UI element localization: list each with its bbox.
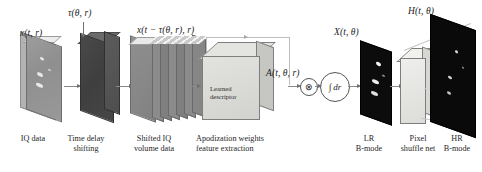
caption-line1: Shifted IQ xyxy=(118,134,190,144)
arrow-shifted-to-apod xyxy=(186,86,200,87)
caption-shifted-iq: Shifted IQ volume data xyxy=(118,134,190,154)
caption-line1: LR xyxy=(348,134,390,144)
hr-bright-spot xyxy=(448,75,452,79)
caption-time-delay: Time delay shifting xyxy=(56,134,116,154)
iq-plane-front xyxy=(26,33,62,122)
shifted-iq-group xyxy=(128,26,204,130)
apodization-cube-group: Learned descriptor xyxy=(200,42,292,130)
lr-bmode-math-label: X(t, θ) xyxy=(334,27,359,37)
integral-symbol: ∫ dr xyxy=(329,82,342,92)
time-delay-math-label: τ(θ, r) xyxy=(68,8,92,18)
cube-label-line2: descriptor xyxy=(210,93,236,101)
hr-bmode-math-label: H(t, θ) xyxy=(408,6,434,16)
lr-bright-spot xyxy=(372,79,379,86)
apodization-math-label: A(t, θ, r) xyxy=(266,68,300,78)
lr-bmode-group xyxy=(356,38,400,130)
caption-line2: B-mode xyxy=(348,144,390,154)
hr-bmode-group xyxy=(424,18,482,148)
caption-line2: B-mode xyxy=(436,144,478,154)
caption-line1: Time delay xyxy=(56,134,116,144)
caption-line1: IQ data xyxy=(4,134,62,144)
lr-bmode-plane xyxy=(360,40,392,126)
caption-line1: HR xyxy=(436,134,478,144)
shifted-iq-math-label: x(t − τ(θ, r), r) xyxy=(137,25,194,35)
arrow-apod-to-multiply xyxy=(288,86,300,87)
lr-bright-spot xyxy=(382,74,385,77)
caption-apodization: Apodization weights feature extraction xyxy=(196,134,306,154)
iq-speckle xyxy=(40,57,44,61)
cube-front-face: Learned descriptor xyxy=(202,56,260,120)
lr-bright-spot xyxy=(376,61,381,67)
iq-speckle xyxy=(48,68,51,71)
hr-bright-spot xyxy=(462,66,464,69)
delay-block-side xyxy=(104,31,120,115)
caption-line2: shifting xyxy=(56,144,116,154)
iq-data-group xyxy=(14,30,76,125)
caption-lr-bmode: LR B-mode xyxy=(348,134,390,154)
skip-connection-arrowhead xyxy=(244,35,248,39)
shuffle-front-face xyxy=(400,58,426,124)
multiply-operator: ⊗ xyxy=(300,78,318,96)
shifted-sheet-stack xyxy=(152,30,206,130)
iq-speckle xyxy=(37,71,43,77)
caption-iq-data: IQ data xyxy=(4,134,62,144)
cube-label-line1: Learned xyxy=(210,85,236,93)
caption-line1: Apodization weights xyxy=(196,134,306,144)
integral-operator: ∫ dr xyxy=(320,72,350,102)
iq-speckle xyxy=(36,82,43,89)
time-delay-input-arrow xyxy=(83,22,84,34)
figure-canvas: x(t, r) IQ data τ(θ, r) Time delay shift… xyxy=(0,0,482,172)
caption-line2: feature extraction xyxy=(196,144,306,154)
hr-bright-spot xyxy=(447,91,451,95)
iq-data-math-label: x(t, r) xyxy=(20,28,42,38)
skip-connection-top xyxy=(206,37,290,38)
caption-line2: volume data xyxy=(118,144,190,154)
arrow-multiply-to-integral xyxy=(315,86,321,87)
hr-bmode-plane xyxy=(430,14,476,139)
cube-label: Learned descriptor xyxy=(210,85,236,101)
lr-bright-spot xyxy=(371,90,378,97)
hr-bright-spot xyxy=(455,50,458,54)
caption-hr-bmode: HR B-mode xyxy=(436,134,478,154)
multiply-symbol: ⊗ xyxy=(305,82,313,92)
